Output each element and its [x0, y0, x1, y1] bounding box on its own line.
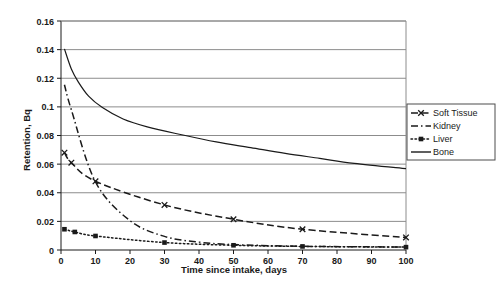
series-marker-square [231, 243, 236, 248]
legend-entry-label: Soft Tissue [433, 108, 478, 118]
legend-entry-label: Kidney [433, 121, 461, 131]
y-tick-label: 0.16 [36, 17, 54, 27]
y-tick-label: 0.08 [36, 131, 54, 141]
y-tick-label: 0.02 [36, 217, 54, 227]
y-tick-label: 0 [49, 246, 54, 256]
chart-canvas: 0102030405060708090100 00.020.040.060.08… [0, 0, 500, 289]
y-axis-title: Retention, Bq [21, 109, 32, 171]
y-tick-label: 0.04 [36, 188, 54, 198]
chart-legend: Soft TissueKidneyLiverBone [407, 104, 495, 160]
y-tick-label: 0.1 [41, 102, 54, 112]
x-tick-label: 0 [58, 256, 63, 266]
y-axis-tick-labels: 00.020.040.060.080.10.120.140.16 [36, 17, 54, 256]
series-marker-square [93, 234, 98, 239]
x-axis-title: Time since intake, days [181, 264, 287, 275]
series-marker-square [300, 244, 305, 249]
x-tick-label: 10 [90, 256, 100, 266]
x-tick-label: 90 [366, 256, 376, 266]
legend-entry-label: Liver [433, 134, 453, 144]
series-marker-square [162, 240, 167, 245]
series-marker-square [404, 245, 409, 250]
series-marker-square [62, 227, 67, 232]
x-tick-label: 80 [332, 256, 342, 266]
series-marker-square [73, 230, 78, 235]
legend-marker-square [419, 137, 424, 142]
x-tick-label: 20 [125, 256, 135, 266]
legend-entry-label: Bone [433, 147, 454, 157]
y-tick-label: 0.12 [36, 74, 54, 84]
x-tick-label: 30 [159, 256, 169, 266]
y-tick-label: 0.14 [36, 45, 54, 55]
y-tick-label: 0.06 [36, 160, 54, 170]
retention-chart: 0102030405060708090100 00.020.040.060.08… [0, 0, 500, 289]
x-tick-label: 100 [398, 256, 413, 266]
x-tick-label: 70 [297, 256, 307, 266]
